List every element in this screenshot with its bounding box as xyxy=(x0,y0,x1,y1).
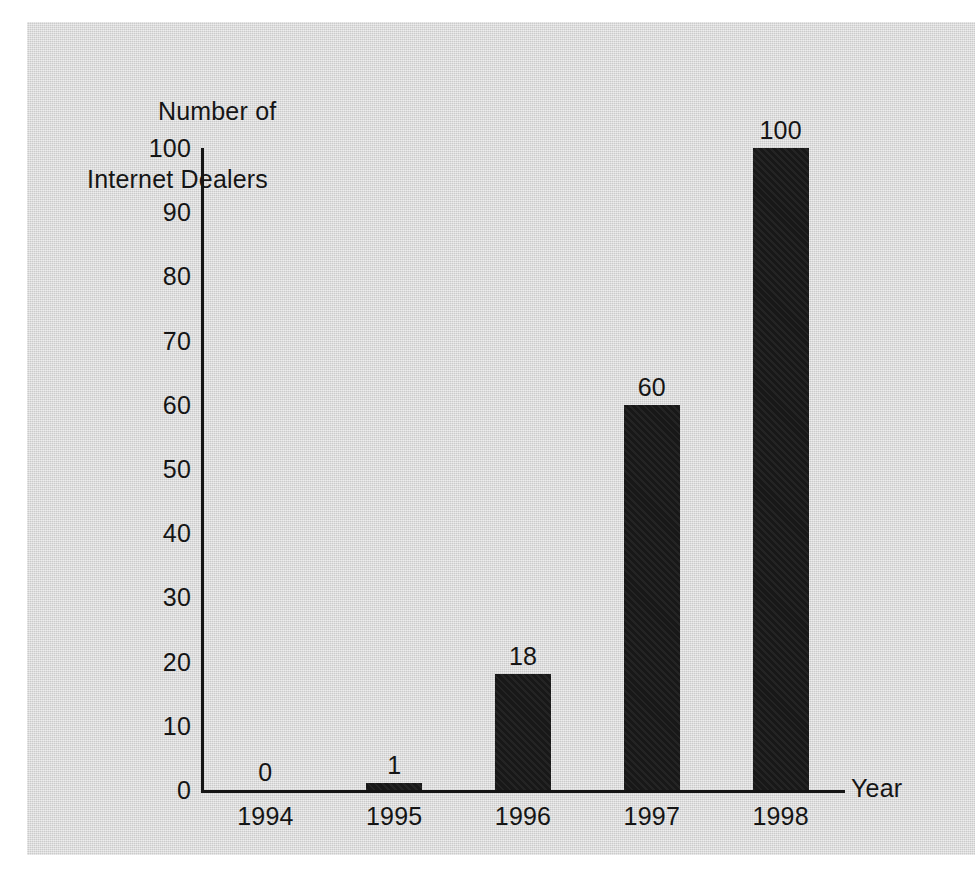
bar-value-label: 1 xyxy=(334,751,454,780)
chart-panel: Number of Internet Dealers 0102030405060… xyxy=(27,22,975,855)
plot-area: 0102030405060708090100 011860100 1994199… xyxy=(27,22,975,855)
y-tick-label: 70 xyxy=(127,326,191,355)
y-tick-label: 60 xyxy=(127,390,191,419)
bar-value-label: 18 xyxy=(463,642,583,671)
y-tick-label: 40 xyxy=(127,519,191,548)
y-tick-label: 80 xyxy=(127,262,191,291)
bar xyxy=(624,405,680,790)
y-tick-label: 100 xyxy=(127,134,191,163)
x-tick-label: 1995 xyxy=(329,802,459,831)
x-axis-title: Year xyxy=(851,774,902,803)
y-tick-label: 30 xyxy=(127,583,191,612)
y-tick-label: 90 xyxy=(127,198,191,227)
x-tick-label: 1996 xyxy=(458,802,588,831)
bar-value-label: 100 xyxy=(721,116,841,145)
y-tick-label: 50 xyxy=(127,455,191,484)
bar xyxy=(753,148,809,790)
x-tick-label: 1997 xyxy=(587,802,717,831)
bar xyxy=(366,783,422,790)
y-tick-label: 20 xyxy=(127,647,191,676)
bar-value-label: 0 xyxy=(205,758,325,787)
bar-series: 011860100 xyxy=(201,22,845,855)
x-tick-label: 1998 xyxy=(716,802,846,831)
y-tick-label: 0 xyxy=(127,776,191,805)
bar xyxy=(495,674,551,790)
bar-value-label: 60 xyxy=(592,373,712,402)
chart-figure: Number of Internet Dealers 0102030405060… xyxy=(0,0,975,875)
y-axis-tick-labels: 0102030405060708090100 xyxy=(125,22,191,855)
x-axis-tick-labels: 19941995199619971998 xyxy=(201,802,845,842)
y-tick-label: 10 xyxy=(127,711,191,740)
x-tick-label: 1994 xyxy=(200,802,330,831)
